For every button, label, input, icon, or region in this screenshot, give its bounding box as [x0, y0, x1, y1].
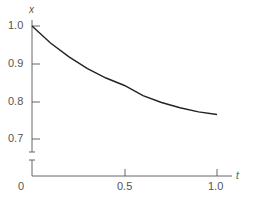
- x-tick-label-1.0: 1.0: [208, 180, 223, 192]
- y-tick-label-1.0: 1.0: [8, 19, 23, 31]
- y-tick-label-0.7: 0.7: [8, 132, 23, 144]
- x-tick-label-0.5: 0.5: [117, 180, 132, 192]
- y-axis-label: x: [29, 4, 34, 15]
- line-chart: [0, 0, 254, 202]
- data-curve: [32, 26, 217, 115]
- y-tick-label-0.9: 0.9: [8, 57, 23, 69]
- x-axis-label: t: [236, 170, 239, 181]
- origin-label: 0: [18, 180, 24, 192]
- y-tick-label-0.8: 0.8: [8, 95, 23, 107]
